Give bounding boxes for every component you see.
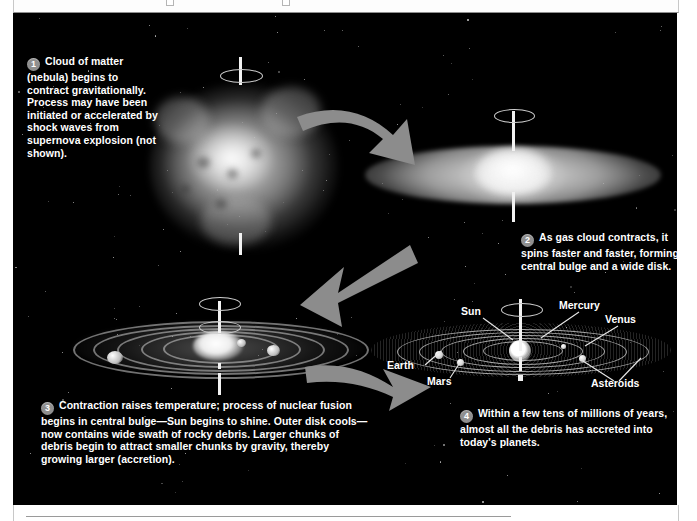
toolbar-box-1[interactable] — [166, 0, 174, 6]
figure-plate: Sun Mercury Venus Earth Mars Asteroids 1… — [13, 13, 677, 505]
label-mercury: Mercury — [559, 299, 600, 311]
step-badge-4: 4 — [460, 410, 473, 423]
toolbar-box-2[interactable] — [282, 0, 290, 6]
bottom-white-area — [13, 505, 679, 521]
label-venus: Venus — [605, 313, 636, 325]
arrow-1-to-2 — [295, 95, 445, 165]
step-badge-2: 2 — [521, 234, 534, 247]
callout-text-3: Contraction raises temperature; process … — [41, 399, 367, 465]
step-badge-3: 3 — [41, 402, 54, 415]
toolbar-label: Printed from e-book — [20, 0, 106, 2]
bottom-divider — [26, 516, 511, 517]
toolbar-strip[interactable]: Printed from e-book — [13, 0, 679, 13]
label-asteroids: Asteroids — [591, 377, 639, 389]
step-badge-1: 1 — [27, 58, 40, 71]
label-sun: Sun — [461, 305, 481, 317]
callout-text-2: As gas cloud contracts, it spins faster … — [521, 231, 677, 272]
callout-step-2: 2As gas cloud contracts, it spins faster… — [521, 231, 677, 272]
callout-step-3: 3Contraction raises temperature; process… — [41, 399, 371, 465]
arrow-2-to-3 — [298, 241, 418, 333]
callout-text-1: Cloud of matter (nebula) begins to contr… — [27, 55, 158, 159]
callout-step-1: 1Cloud of matter (nebula) begins to cont… — [27, 55, 159, 159]
callout-step-4: 4Within a few tens of millions of years,… — [460, 407, 675, 448]
page-root: Printed from e-book — [0, 0, 697, 521]
callout-text-4: Within a few tens of millions of years, … — [460, 407, 667, 448]
